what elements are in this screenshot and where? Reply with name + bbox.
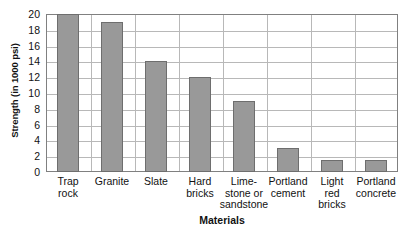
x-axis-tick-label-line: sandstone <box>214 199 274 211</box>
bar-slot <box>46 14 90 172</box>
bar-slot <box>354 14 398 172</box>
bar[interactable] <box>321 160 343 172</box>
y-axis-tick-label: 16 <box>0 41 40 51</box>
y-axis-tick-labels: 02468101214161820 <box>0 14 44 172</box>
bar-chart: Strength (in 1000 psi) 02468101214161820… <box>0 0 410 228</box>
x-axis-title: Materials <box>46 214 398 226</box>
bar[interactable] <box>277 148 299 172</box>
bars-container <box>46 14 398 172</box>
x-axis-tick-label-line: Portland <box>346 176 406 188</box>
bar[interactable] <box>189 77 211 172</box>
bar[interactable] <box>101 22 123 172</box>
bar-slot <box>222 14 266 172</box>
bar[interactable] <box>365 160 387 172</box>
bar-slot <box>178 14 222 172</box>
y-axis-tick-label: 14 <box>0 56 40 66</box>
y-axis-tick-label: 10 <box>0 88 40 98</box>
bar-slot <box>310 14 354 172</box>
y-axis-tick-label: 18 <box>0 25 40 35</box>
bar[interactable] <box>233 101 255 172</box>
x-axis-tick-label-line: bricks <box>302 199 362 211</box>
y-axis-tick-label: 0 <box>0 167 40 177</box>
x-axis-tick-labels: TraprockGraniteSlateHardbricksLime-stone… <box>46 176 398 214</box>
x-axis-tick-label: Portlandconcrete <box>346 176 406 199</box>
y-axis-tick-label: 12 <box>0 72 40 82</box>
y-axis-tick-label: 20 <box>0 9 40 19</box>
y-axis-tick-label: 2 <box>0 151 40 161</box>
bar-slot <box>90 14 134 172</box>
bar-slot <box>266 14 310 172</box>
x-axis-tick-label-line: concrete <box>346 188 406 200</box>
bar[interactable] <box>57 14 79 172</box>
y-axis-tick-label: 8 <box>0 104 40 114</box>
x-axis-tick-label-line: rock <box>38 188 98 200</box>
bar-slot <box>134 14 178 172</box>
bar[interactable] <box>145 61 167 172</box>
y-axis-tick-label: 6 <box>0 120 40 130</box>
y-axis-tick-label: 4 <box>0 135 40 145</box>
